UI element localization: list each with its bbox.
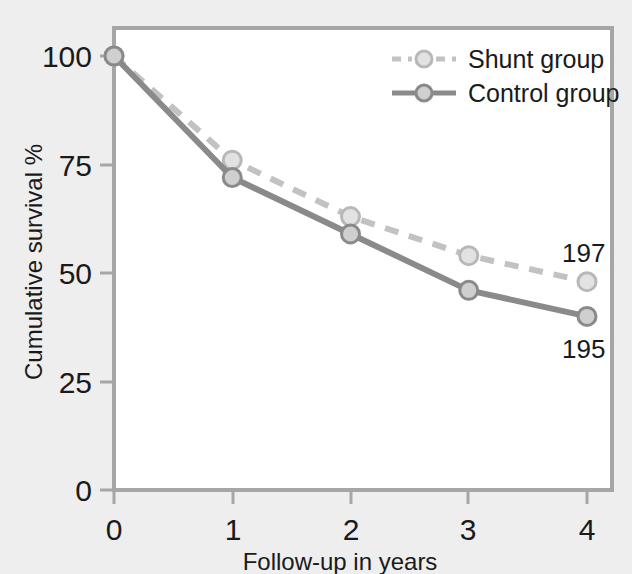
y-tick-label-100: 100 bbox=[42, 40, 92, 73]
x-tick-label-2: 2 bbox=[343, 513, 360, 546]
data-point-control-2 bbox=[342, 225, 360, 243]
data-point-control-0 bbox=[105, 47, 123, 65]
y-tick-label-0: 0 bbox=[75, 474, 92, 507]
figure-container: 100 75 50 25 0 0 1 2 3 4 Cumulative surv… bbox=[0, 0, 632, 574]
data-point-control-1 bbox=[223, 169, 241, 187]
legend-marker-shunt bbox=[416, 51, 432, 67]
data-point-shunt-1 bbox=[223, 151, 241, 169]
data-point-control-4 bbox=[578, 307, 596, 325]
x-tick-label-4: 4 bbox=[579, 513, 596, 546]
survival-curve-chart: 100 75 50 25 0 0 1 2 3 4 Cumulative surv… bbox=[0, 0, 632, 574]
data-point-shunt-3 bbox=[460, 247, 478, 265]
data-point-control-3 bbox=[460, 281, 478, 299]
y-tick-label-75: 75 bbox=[59, 149, 92, 182]
data-point-shunt-4 bbox=[578, 273, 596, 291]
x-axis-title: Follow-up in years bbox=[243, 548, 438, 574]
annotation-control-endpoint: 195 bbox=[562, 334, 605, 364]
x-tick-label-1: 1 bbox=[225, 513, 242, 546]
legend-label-control-group: Control group bbox=[468, 79, 619, 107]
y-tick-label-25: 25 bbox=[59, 366, 92, 399]
x-tick-label-0: 0 bbox=[106, 513, 123, 546]
x-tick-label-3: 3 bbox=[460, 513, 477, 546]
legend-label-shunt-group: Shunt group bbox=[468, 45, 604, 73]
y-axis-title: Cumulative survival % bbox=[20, 144, 47, 380]
legend-marker-control bbox=[416, 85, 432, 101]
annotation-shunt-endpoint: 197 bbox=[562, 238, 605, 268]
y-tick-label-50: 50 bbox=[59, 257, 92, 290]
data-point-shunt-2 bbox=[342, 208, 360, 226]
